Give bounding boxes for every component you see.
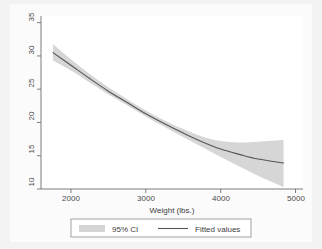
y-tick-label-35: 35 — [27, 12, 36, 21]
y-tick-label-15: 15 — [27, 144, 36, 153]
y-tick-label-30: 30 — [27, 45, 36, 54]
legend-label-ci: 95% CI — [112, 225, 138, 234]
legend-label-fitted: Fitted values — [195, 225, 240, 234]
y-tick-label-10: 10 — [27, 177, 36, 186]
chart-figure: 10 15 20 25 30 35 2000 3000 4000 5000 We… — [0, 0, 322, 249]
x-tick-label-4000: 4000 — [212, 194, 230, 203]
chart-legend: 95% CI Fitted values — [71, 219, 251, 237]
y-axis-ticks — [37, 23, 41, 189]
x-tick-label-2000: 2000 — [62, 194, 80, 203]
x-tick-label-3000: 3000 — [137, 194, 155, 203]
y-tick-label-25: 25 — [27, 78, 36, 87]
legend-swatch-ci — [79, 225, 105, 232]
x-tick-label-5000: 5000 — [287, 194, 305, 203]
chart-svg: 10 15 20 25 30 35 2000 3000 4000 5000 We… — [10, 4, 312, 242]
chart-card: 10 15 20 25 30 35 2000 3000 4000 5000 We… — [10, 4, 312, 242]
x-axis-title: Weight (lbs.) — [150, 206, 195, 215]
x-axis-ticks — [71, 189, 296, 193]
y-tick-label-20: 20 — [27, 111, 36, 120]
